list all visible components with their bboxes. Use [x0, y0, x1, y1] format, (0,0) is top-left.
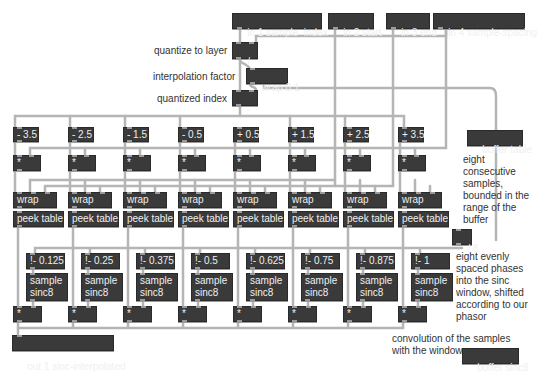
wrap-object[interactable]: wrap	[178, 192, 222, 208]
phase-offset-object[interactable]: !- 0.75	[301, 253, 340, 269]
peek-table-object[interactable]: peek table	[68, 211, 119, 227]
divide-object[interactable]: /	[232, 42, 258, 59]
multiply-window-object[interactable]: *	[288, 306, 317, 322]
phase-offset-object[interactable]: !- 1	[411, 253, 450, 269]
multiply-window-object-label: *	[292, 308, 296, 319]
offset-object[interactable]: - 2.5	[68, 127, 94, 142]
wrap-object[interactable]: wrap	[68, 192, 112, 208]
peek-table-object[interactable]: peek table	[343, 211, 394, 227]
offset-object[interactable]: - 0.5	[178, 127, 204, 142]
multiply-index-object[interactable]: *	[13, 155, 41, 171]
peek-table-object[interactable]: peek table	[123, 211, 174, 227]
multiply-index-object[interactable]: *	[398, 155, 426, 171]
peek-table-object-label: peek table	[127, 213, 173, 224]
sample-sinc8-object[interactable]: sample sinc8	[411, 273, 453, 301]
sample-sinc8-object[interactable]: sample sinc8	[191, 273, 233, 301]
sample-sinc8-object-label: sample sinc8	[360, 275, 392, 298]
sample-sinc8-object[interactable]: sample sinc8	[26, 273, 68, 301]
sample-sinc8-object[interactable]: sample sinc8	[136, 273, 178, 301]
peek-table-object[interactable]: peek table	[233, 211, 284, 227]
phase-offset-object-label: !- 0.5	[195, 255, 218, 266]
offset-object-label: + 0.5	[237, 129, 260, 140]
phase-offset-object[interactable]: !- 0.5	[191, 253, 230, 269]
peek-table-object[interactable]: peek table	[178, 211, 229, 227]
sample-sinc8-object[interactable]: sample sinc8	[246, 273, 288, 301]
phase-offset-object[interactable]: !- 0.125	[26, 253, 65, 269]
peek-table-object[interactable]: peek table	[288, 211, 339, 227]
comment-eight-phases: eight evenly spaced phases into the sinc…	[456, 251, 528, 323]
sample-sinc8-object-label: sample sinc8	[30, 275, 62, 298]
wrap-object[interactable]: wrap	[233, 192, 277, 208]
multiply-index-object-label: *	[237, 157, 241, 168]
peek-table-object[interactable]: peek table	[13, 211, 64, 227]
multiply-index-object[interactable]: *	[178, 155, 206, 171]
wrap-object-label: wrap	[237, 194, 259, 205]
wrap-0-1-object[interactable]: wrap 0 1	[246, 68, 288, 84]
inlet-2-start[interactable]: in 2 start	[328, 13, 374, 29]
phase-offset-object-label: !- 0.625	[250, 255, 284, 266]
wrap-0-1-label: wrap 0 1	[261, 82, 299, 93]
wrap-object-label: wrap	[292, 194, 314, 205]
phase-offset-object[interactable]: !- 0.875	[356, 253, 395, 269]
inlet-3-end[interactable]: in 3 end	[386, 13, 430, 29]
wrap-object-label: wrap	[182, 194, 204, 205]
sample-sinc8-object-label: sample sinc8	[195, 275, 227, 298]
buffer-table-object[interactable]: buffer table	[467, 130, 523, 146]
buffer-sinc8-object[interactable]: buffer sinc8	[462, 348, 519, 364]
wrap-object[interactable]: wrap	[13, 192, 57, 208]
phase-offset-object[interactable]: !- 0.375	[136, 253, 175, 269]
outlet-1-sinc-interpolated[interactable]: out 1 sinc-interpolated	[12, 335, 114, 351]
sample-sinc8-object[interactable]: sample sinc8	[81, 273, 123, 301]
offset-object[interactable]: + 0.5	[233, 127, 259, 142]
multiply-window-object[interactable]: *	[13, 306, 42, 322]
multiply-index-object[interactable]: *	[123, 155, 151, 171]
wrap-object[interactable]: wrap	[123, 192, 167, 208]
sample-sinc8-object-label: sample sinc8	[85, 275, 117, 298]
wrap-object[interactable]: wrap	[398, 192, 442, 208]
wrap-object[interactable]: wrap	[288, 192, 332, 208]
multiply-window-object-label: *	[17, 308, 21, 319]
sample-sinc8-object-label: sample sinc8	[140, 275, 172, 298]
multiply-index-object-label: *	[72, 157, 76, 168]
sample-sinc8-object[interactable]: sample sinc8	[356, 273, 398, 301]
subtract-object[interactable]: -	[232, 90, 258, 106]
peek-table-object-label: peek table	[237, 213, 283, 224]
wrap-object[interactable]: wrap	[343, 192, 387, 208]
multiply-index-object[interactable]: *	[68, 155, 96, 171]
multiply-window-object[interactable]: *	[68, 306, 97, 322]
offset-object-label: + 1.5	[292, 129, 315, 140]
inlet-1-sample-index[interactable]: in 1 sample_index	[232, 13, 322, 29]
subtract-label: -	[247, 104, 250, 115]
divide-8-object[interactable]: / 8	[452, 229, 472, 245]
multiply-window-object[interactable]: *	[233, 306, 262, 322]
multiply-index-object[interactable]: *	[343, 155, 371, 171]
multiply-window-object[interactable]: *	[123, 306, 152, 322]
multiply-window-object-label: *	[127, 308, 131, 319]
multiply-index-object-label: *	[182, 157, 186, 168]
offset-object[interactable]: + 1.5	[288, 127, 314, 142]
inlet-4-sample-spacing[interactable]: in 4 sample-spacing	[433, 13, 525, 29]
offset-object[interactable]: + 3.5	[398, 127, 424, 142]
phase-offset-object[interactable]: !- 0.625	[246, 253, 285, 269]
offset-object-label: + 2.5	[347, 129, 370, 140]
multiply-index-object-label: *	[127, 157, 131, 168]
peek-table-object[interactable]: peek table	[398, 211, 449, 227]
multiply-window-object-label: *	[402, 308, 406, 319]
multiply-index-object[interactable]: *	[288, 155, 316, 171]
multiply-index-object[interactable]: *	[233, 155, 261, 171]
offset-object[interactable]: - 1.5	[123, 127, 149, 142]
outlet-1-label: out 1 sinc-interpolated	[27, 361, 125, 372]
offset-object[interactable]: - 3.5	[13, 127, 39, 142]
sample-sinc8-object[interactable]: sample sinc8	[301, 273, 343, 301]
multiply-window-object[interactable]: *	[398, 306, 427, 322]
phase-offset-object-label: !- 0.875	[360, 255, 394, 266]
phase-offset-object[interactable]: !- 0.25	[81, 253, 120, 269]
offset-object[interactable]: + 2.5	[343, 127, 369, 142]
multiply-window-object[interactable]: *	[343, 306, 372, 322]
offset-object-label: - 2.5	[72, 129, 92, 140]
multiply-index-object-label: *	[347, 157, 351, 168]
peek-table-object-label: peek table	[72, 213, 118, 224]
multiply-window-object[interactable]: *	[178, 306, 207, 322]
wrap-object-label: wrap	[72, 194, 94, 205]
